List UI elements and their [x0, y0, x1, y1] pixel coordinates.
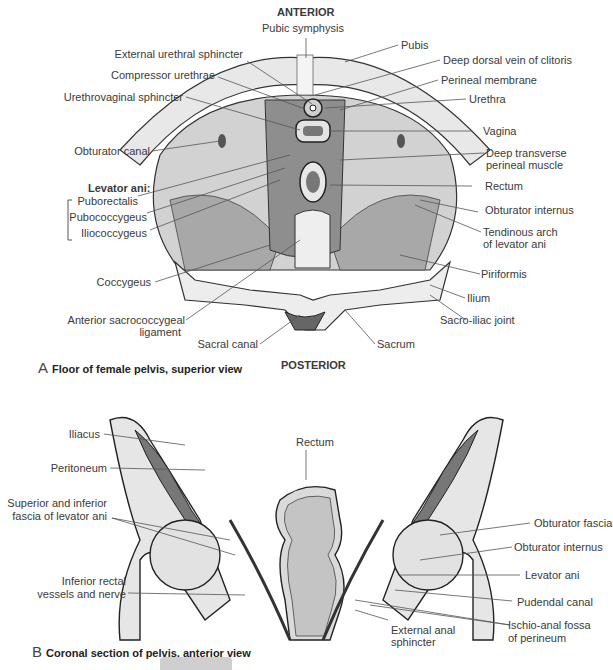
label-iliacus: Iliacus [69, 428, 100, 441]
label-pubococcygeus: Pubococcygeus [69, 211, 147, 224]
label-superior-and-inferior: Superior and inferior [7, 497, 107, 510]
label-inferior-rectal: Inferior rectal [62, 575, 126, 588]
label-of-perineum: of perineum [508, 632, 566, 645]
label-sacral-canal: Sacral canal [197, 338, 258, 351]
label-vagina: Vagina [483, 125, 516, 138]
label-ischio-anal-fossa: Ischio-anal fossa [508, 619, 591, 632]
label-levator-ani: Levator ani [525, 569, 579, 582]
label-ligament: ligament [139, 326, 181, 339]
label-compressor-urethrae: Compressor urethrae [111, 69, 215, 82]
label-obturator-canal: Obturator canal [74, 145, 150, 158]
label-rectum-b: Rectum [296, 436, 334, 449]
label-obturator-fascia: Obturator fascia [534, 517, 612, 530]
label-sacro-iliac-joint: Sacro-iliac joint [440, 314, 515, 327]
label-puborectalis: Puborectalis [77, 195, 138, 208]
label-of-levator-ani: of levator ani [483, 238, 546, 251]
label-ilium: Ilium [467, 292, 490, 305]
label-obturator-internus-a: Obturator internus [485, 204, 574, 217]
label-pubic-symphysis: Pubic symphysis [262, 22, 344, 35]
label-urethra: Urethra [469, 93, 506, 106]
caption-letter-a: A [38, 359, 48, 376]
label-perineal-muscle: perineal muscle [486, 159, 563, 172]
label-iliococcygeus: Iliococcygeus [81, 227, 147, 240]
label-perineal-membrane: Perineal membrane [441, 74, 537, 87]
label-pudendal-canal: Pudendal canal [517, 596, 593, 609]
label-external-urethral-sphincter: External urethral sphincter [115, 48, 243, 61]
caption-figure-a: AFloor of female pelvis, superior view [38, 359, 242, 376]
caption-letter-b: B [32, 643, 42, 660]
label-sacrum: Sacrum [377, 338, 415, 351]
label-piriformis: Piriformis [481, 268, 527, 281]
label-rectum-a: Rectum [485, 180, 523, 193]
label-pubis: Pubis [401, 39, 429, 52]
label-deep-dorsal-vein-of-clitoris: Deep dorsal vein of clitoris [443, 54, 572, 67]
orientation-label-posterior: POSTERIOR [281, 359, 346, 372]
label-coccygeus: Coccygeus [97, 276, 151, 289]
label-obturator-internus-b: Obturator internus [514, 541, 603, 554]
figure-number-tab [160, 657, 232, 670]
label-vessels-and-nerve: vessels and nerve [37, 588, 126, 601]
caption-text-a: Floor of female pelvis, superior view [52, 363, 242, 375]
label-fascia-of-levator-ani: fascia of levator ani [12, 510, 107, 523]
label-urethrovaginal-sphincter: Urethrovaginal sphincter [64, 91, 183, 104]
label-levator-ani-heading: Levator ani: [88, 182, 150, 195]
orientation-label-anterior: ANTERIOR [277, 6, 334, 19]
label-peritoneum: Peritoneum [51, 462, 107, 475]
label-sphincter: sphincter [391, 636, 436, 649]
